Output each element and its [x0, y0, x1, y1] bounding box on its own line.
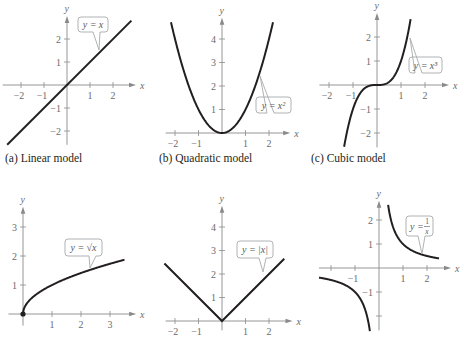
svg-text:3: 3	[108, 319, 113, 330]
svg-text:y =: y =	[409, 221, 424, 232]
label-bubble-abs: y = |x|	[237, 241, 273, 272]
svg-text:3: 3	[12, 222, 17, 233]
x-axis-arrow-icon	[129, 312, 136, 317]
svg-text:2: 2	[111, 90, 116, 101]
svg-text:−2: −2	[168, 326, 179, 337]
svg-text:−1: −1	[191, 138, 202, 149]
svg-text:1: 1	[12, 280, 17, 291]
function-models-figure: x−2−112y−2−112y = xx−2−112y1234y = x²x−2…	[0, 0, 464, 343]
caption-quadratic-model: (b) Quadratic model	[159, 152, 252, 164]
svg-text:y = x³: y = x³	[413, 60, 439, 71]
svg-text:2: 2	[267, 326, 272, 337]
label-bubble-cubic: y = x³	[409, 38, 442, 73]
svg-text:−1: −1	[191, 326, 202, 337]
y-axis-arrow-icon	[65, 16, 70, 23]
svg-text:−2: −2	[14, 90, 25, 101]
svg-text:1: 1	[401, 273, 406, 284]
chart-panel-b: x−2−112y1234y = x²	[166, 5, 300, 149]
svg-text:4: 4	[211, 222, 216, 233]
svg-text:x: x	[454, 263, 460, 274]
svg-text:3: 3	[211, 57, 216, 68]
y-axis-arrow-icon	[21, 207, 26, 214]
svg-text:y: y	[376, 188, 382, 199]
svg-text:2: 2	[366, 32, 371, 43]
y-axis: y1234	[211, 5, 225, 133]
x-axis: x−2−112	[166, 128, 300, 150]
svg-text:y: y	[219, 5, 225, 16]
y-axis-arrow-icon	[375, 13, 380, 20]
label-bubble-sqrt: y = √x	[65, 239, 102, 268]
caption-cubic-model: (c) Cubic model	[311, 152, 386, 164]
svg-text:1: 1	[88, 90, 93, 101]
curve-y-equals-abs-x	[164, 259, 284, 321]
svg-text:1: 1	[56, 57, 61, 68]
svg-text:−2: −2	[168, 138, 179, 149]
svg-text:x: x	[293, 128, 299, 139]
svg-text:y = √x: y = √x	[69, 242, 97, 253]
svg-text:y = |x|: y = |x|	[241, 244, 268, 255]
chart-panel-e: x−2−112y1234y = |x|	[164, 193, 301, 337]
y-axis: y−2−112	[50, 3, 70, 145]
x-axis-arrow-icon	[442, 83, 449, 88]
curve-y-equals-sqrt-x	[23, 260, 125, 314]
svg-text:x: x	[139, 80, 145, 91]
svg-text:2: 2	[267, 138, 272, 149]
svg-text:y: y	[64, 3, 70, 14]
svg-text:2: 2	[211, 269, 216, 280]
svg-text:x: x	[139, 309, 145, 320]
svg-text:1: 1	[366, 56, 371, 67]
svg-text:2: 2	[368, 215, 373, 226]
x-axis-arrow-icon	[286, 319, 293, 324]
x-axis: x123	[9, 309, 146, 331]
y-axis-arrow-icon	[220, 18, 225, 25]
chart-panel-d: x123y123y = √x	[9, 194, 146, 330]
svg-text:1: 1	[211, 104, 216, 115]
svg-text:y: y	[374, 0, 380, 11]
x-axis-arrow-icon	[129, 83, 136, 88]
chart-panel-f: x−112y−112y =1x	[319, 188, 460, 331]
svg-text:2: 2	[211, 81, 216, 92]
chart-panel-a: x−2−112y−2−112y = x	[3, 3, 145, 145]
caption-linear-model: (a) Linear model	[5, 152, 82, 164]
svg-text:x: x	[296, 316, 302, 327]
chart-panel-c: x−2−112y−2−112y = x³	[319, 0, 458, 147]
x-axis: x−2−112	[3, 80, 145, 102]
x-axis-arrow-icon	[283, 131, 290, 136]
svg-text:1: 1	[243, 138, 248, 149]
svg-text:−2: −2	[360, 128, 371, 139]
x-axis: x−112	[319, 263, 460, 285]
y-axis: y−2−112	[360, 0, 380, 147]
svg-text:−1: −1	[346, 90, 357, 101]
svg-text:4: 4	[211, 34, 216, 45]
svg-text:−2: −2	[322, 90, 333, 101]
svg-text:y: y	[20, 194, 26, 205]
svg-text:1: 1	[425, 217, 429, 226]
x-axis-arrow-icon	[444, 266, 451, 271]
svg-text:−1: −1	[360, 104, 371, 115]
y-axis: y123	[12, 194, 26, 326]
y-axis-arrow-icon	[220, 206, 225, 213]
svg-text:−1: −1	[37, 90, 48, 101]
svg-text:1: 1	[50, 319, 55, 330]
svg-text:−1: −1	[348, 273, 359, 284]
svg-text:1: 1	[399, 90, 404, 101]
svg-text:3: 3	[211, 245, 216, 256]
y-axis-arrow-icon	[377, 201, 382, 208]
svg-text:y = x²: y = x²	[261, 100, 287, 111]
svg-text:x: x	[452, 80, 458, 91]
label-bubble-quadratic: y = x²	[256, 76, 291, 113]
svg-text:x: x	[424, 227, 429, 236]
svg-text:1: 1	[211, 292, 216, 303]
origin-point-marker	[20, 311, 25, 316]
svg-text:1: 1	[368, 239, 373, 250]
svg-text:−1: −1	[50, 103, 61, 114]
svg-text:2: 2	[425, 273, 430, 284]
svg-text:y = x: y = x	[82, 19, 104, 30]
svg-text:−2: −2	[50, 126, 61, 137]
x-axis: x−2−112	[166, 316, 302, 338]
svg-text:2: 2	[12, 251, 17, 262]
svg-text:2: 2	[79, 319, 84, 330]
svg-text:2: 2	[56, 34, 61, 45]
charts-canvas: x−2−112y−2−112y = xx−2−112y1234y = x²x−2…	[0, 0, 464, 343]
label-bubble-linear: y = x	[78, 17, 108, 50]
